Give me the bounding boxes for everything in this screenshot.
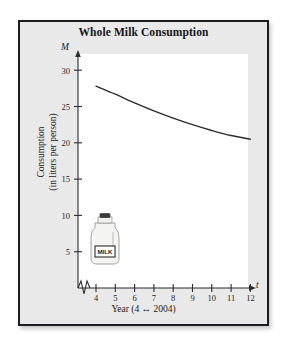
jug-label: MILK — [95, 246, 115, 257]
y-axis-title: Consumption (in liters per person) — [35, 72, 59, 232]
x-tick-label: 5 — [108, 293, 122, 303]
y-axis-variable-label: M — [61, 42, 69, 52]
y-tick-label: 5 — [50, 247, 70, 257]
jug-cap — [100, 214, 110, 218]
x-tick-label: 11 — [224, 293, 238, 303]
y-axis-title-line1: Consumption — [35, 72, 47, 232]
x-axis-variable-label: t — [256, 280, 259, 290]
x-tick-label: 6 — [128, 293, 142, 303]
x-tick-label: 8 — [166, 293, 180, 303]
x-tick-label: 9 — [186, 293, 200, 303]
y-axis-arrow — [75, 50, 81, 57]
y-axis-title-line2: (in liters per person) — [47, 72, 59, 232]
x-tick-label: 7 — [147, 293, 161, 303]
chart-figure: Whole Milk Consumption — [18, 20, 269, 326]
x-axis-title: Year (4 ↔ 2004) — [20, 304, 267, 314]
x-tick-label: 12 — [243, 293, 257, 303]
x-tick-label: 4 — [89, 293, 103, 303]
data-curve — [96, 86, 250, 139]
jug-label-text: MILK — [97, 248, 113, 255]
milk-jug-illustration: MILK — [88, 210, 122, 266]
x-tick-label: 10 — [205, 293, 219, 303]
